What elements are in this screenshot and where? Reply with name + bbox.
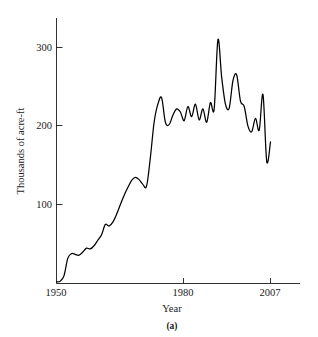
y-axis-ticks <box>57 48 63 205</box>
x-axis-title: Year <box>162 303 182 314</box>
x-tick-label-1950: 1950 <box>46 287 67 298</box>
figure-caption: (a) <box>166 321 177 332</box>
x-tick-label-1980: 1980 <box>173 287 194 298</box>
y-tick-label-300: 300 <box>36 42 52 53</box>
y-axis-title: Thousands of acre-ft <box>15 107 26 194</box>
data-series-storage <box>57 39 271 282</box>
y-tick-label-200: 200 <box>36 120 52 131</box>
line-chart: 300 200 100 1950 1980 2007 Thousands of … <box>0 0 318 337</box>
figure-container: 300 200 100 1950 1980 2007 Thousands of … <box>0 0 318 337</box>
x-axis-ticks <box>184 278 271 284</box>
x-tick-label-2007: 2007 <box>260 287 281 298</box>
y-tick-label-100: 100 <box>36 199 52 210</box>
